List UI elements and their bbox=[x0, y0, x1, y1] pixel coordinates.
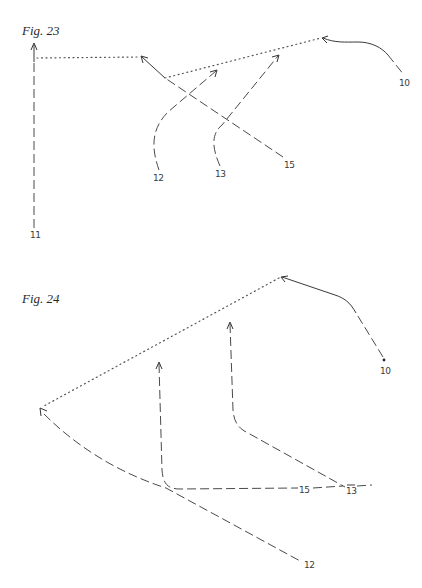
fig23-label-13: 13 bbox=[215, 169, 225, 179]
fig23-label-12: 12 bbox=[153, 173, 163, 183]
fig23-label-15: 15 bbox=[284, 160, 294, 170]
fig-24-diagram: 10 12 15 13 bbox=[40, 276, 391, 570]
diagram-page: Fig. 23 Fig. 24 11 15 bbox=[0, 0, 422, 588]
fig23-label-10: 10 bbox=[399, 78, 410, 88]
fig24-label-10: 10 bbox=[380, 366, 391, 376]
fig23-path-11: 11 bbox=[30, 43, 40, 240]
fig23-dotted-link-a bbox=[37, 57, 137, 58]
fig24-dotted-link bbox=[42, 278, 279, 407]
fig23-path-10: 10 bbox=[322, 36, 410, 88]
fig23-path-12: 12 bbox=[153, 70, 217, 183]
fig24-label-13: 13 bbox=[346, 486, 356, 496]
fig23-label-11: 11 bbox=[30, 230, 40, 240]
arrow-icon bbox=[40, 408, 47, 416]
fig23-path-15: 15 bbox=[141, 56, 294, 170]
fig24-path-15: 15 bbox=[156, 362, 343, 495]
start-dot-icon bbox=[383, 359, 386, 362]
fig-23-diagram: 11 15 12 13 bbox=[30, 36, 410, 240]
fig24-label-15: 15 bbox=[299, 485, 309, 495]
fig24-label-12: 12 bbox=[304, 560, 314, 570]
fig24-path-10: 10 bbox=[281, 276, 391, 376]
fig23-dotted-link-b bbox=[165, 38, 321, 78]
fig24-path-13: 13 bbox=[227, 322, 372, 496]
